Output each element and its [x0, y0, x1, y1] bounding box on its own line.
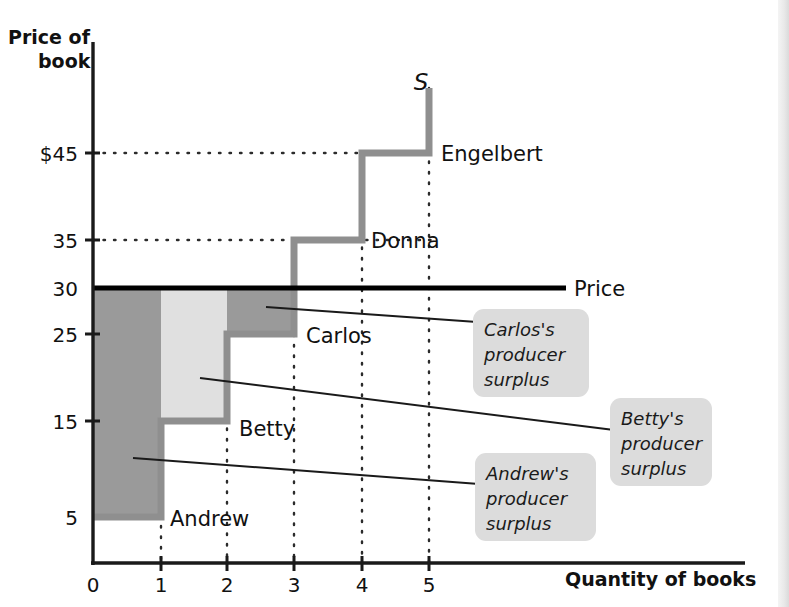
x-tick-label-2: 2: [221, 573, 234, 597]
carlos-callout-line3: surplus: [484, 369, 549, 390]
betty-surplus-region: [161, 288, 227, 421]
y-axis-title-line1: Price of: [8, 26, 91, 48]
x-tick-label-5: 5: [423, 573, 436, 597]
betty-surplus-callout: Betty's producer surplus: [610, 398, 712, 486]
carlos-leader-line: [266, 307, 477, 322]
betty-callout-line2: producer: [620, 433, 704, 454]
betty-callout-line1: Betty's: [621, 408, 684, 429]
seller-label-donna: Donna: [371, 229, 440, 253]
seller-label-andrew: Andrew: [170, 507, 249, 531]
x-axis-title: Quantity of books: [565, 568, 756, 590]
supply-curve-label: S: [414, 69, 429, 95]
price-line-label: Price: [574, 277, 625, 301]
supply-curve-figure: $45 35 30 25 15 5 0 1 2 3 4 5 Price of b…: [0, 0, 789, 607]
x-tick-label-1: 1: [155, 573, 168, 597]
page-edge-shadow: [778, 0, 789, 607]
carlos-surplus-callout: Carlos's producer surplus: [473, 309, 589, 397]
andrew-callout-line1: Andrew's: [485, 463, 569, 484]
y-tick-label-15: 15: [53, 410, 78, 434]
andrew-callout-line2: producer: [485, 488, 569, 509]
y-axis-title-line2: book: [38, 50, 91, 72]
carlos-callout-line2: producer: [483, 344, 567, 365]
andrew-surplus-region: [93, 288, 161, 517]
figure-page: $45 35 30 25 15 5 0 1 2 3 4 5 Price of b…: [0, 0, 789, 607]
x-tick-label-3: 3: [288, 573, 301, 597]
x-tick-label-0: 0: [87, 573, 100, 597]
seller-label-betty: Betty: [239, 417, 295, 441]
andrew-callout-line3: surplus: [486, 513, 551, 534]
seller-label-carlos: Carlos: [306, 324, 372, 348]
y-tick-label-30: 30: [53, 277, 78, 301]
y-tick-label-5: 5: [65, 506, 78, 530]
y-tick-label-25: 25: [53, 323, 78, 347]
x-tick-label-4: 4: [356, 573, 369, 597]
carlos-surplus-region: [227, 288, 294, 334]
y-tick-label-35: 35: [53, 229, 78, 253]
andrew-leader-line: [133, 458, 479, 484]
carlos-callout-line1: Carlos's: [484, 319, 555, 340]
andrew-surplus-callout: Andrew's producer surplus: [475, 453, 596, 541]
producer-surplus-regions: [93, 288, 294, 517]
betty-callout-line3: surplus: [621, 458, 686, 479]
seller-label-engelbert: Engelbert: [441, 142, 543, 166]
y-tick-label-45: $45: [40, 142, 78, 166]
